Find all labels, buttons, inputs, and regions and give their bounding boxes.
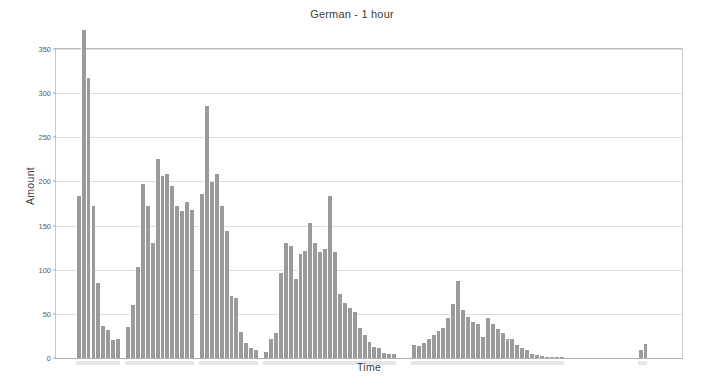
bar — [105, 330, 110, 358]
bar — [322, 249, 327, 358]
bar — [436, 331, 441, 358]
bar — [125, 327, 130, 358]
bar — [278, 273, 283, 358]
gridlines — [56, 49, 682, 358]
bar — [445, 318, 450, 358]
bar — [233, 298, 238, 358]
bar — [243, 343, 248, 358]
bar — [342, 303, 347, 358]
bar — [224, 231, 229, 358]
bar-series — [56, 49, 682, 358]
bar — [248, 348, 253, 358]
y-axis-tick-label: 200 — [38, 177, 51, 186]
bar — [189, 210, 194, 358]
bar — [238, 332, 243, 358]
bar — [86, 78, 91, 358]
bar — [288, 246, 293, 358]
bar — [411, 345, 416, 358]
bar — [204, 106, 209, 358]
y-axis-tick-label: 350 — [38, 45, 51, 54]
y-axis-tick-mark — [53, 181, 56, 182]
gridline — [56, 49, 682, 50]
bar — [209, 182, 214, 358]
bar — [440, 328, 445, 358]
gridline — [56, 314, 682, 315]
bar — [371, 347, 376, 358]
bar — [199, 194, 204, 358]
y-axis-tick-label: 0 — [47, 354, 51, 363]
bar — [337, 294, 342, 358]
bar — [381, 353, 386, 358]
y-axis-tick-mark — [53, 137, 56, 138]
bar — [357, 328, 362, 358]
chart-container: German - 1 hour Amount 05010015020025030… — [0, 0, 704, 383]
bar — [268, 339, 273, 358]
bar — [115, 339, 120, 358]
bar — [169, 186, 174, 358]
bar — [431, 335, 436, 358]
bar — [376, 348, 381, 358]
bar — [307, 223, 312, 358]
bar — [229, 296, 234, 358]
bar — [524, 350, 529, 358]
bar — [460, 310, 465, 358]
bar — [81, 30, 86, 358]
bar — [135, 267, 140, 358]
y-axis-tick-label: 300 — [38, 89, 51, 98]
bar — [470, 322, 475, 358]
bar — [263, 352, 268, 358]
bar — [465, 317, 470, 358]
plot-area: 050100150200250300350 — [55, 48, 683, 359]
bar — [174, 206, 179, 358]
bar — [352, 312, 357, 358]
bar — [317, 252, 322, 358]
bar — [519, 348, 524, 358]
gridline — [56, 358, 682, 359]
bar — [219, 206, 224, 358]
bar — [160, 176, 165, 358]
gridline — [56, 270, 682, 271]
bar — [490, 324, 495, 358]
gridline — [56, 181, 682, 182]
bar — [500, 333, 505, 358]
bar — [421, 343, 426, 358]
bar — [426, 339, 431, 358]
chart-title: German - 1 hour — [0, 8, 704, 20]
bar — [386, 354, 391, 358]
bar — [362, 335, 367, 358]
bar — [110, 340, 115, 358]
bar — [298, 254, 303, 358]
bar — [312, 243, 317, 358]
bar — [302, 251, 307, 358]
y-axis-tick-mark — [53, 225, 56, 226]
x-axis-ticks — [56, 49, 682, 358]
bar — [283, 243, 288, 358]
bar — [549, 357, 554, 358]
bar — [534, 355, 539, 358]
bar — [391, 354, 396, 358]
y-axis-tick-mark — [53, 49, 56, 50]
bar — [253, 350, 258, 358]
bar — [643, 344, 648, 358]
bar — [332, 252, 337, 358]
bar — [91, 206, 96, 358]
bar — [367, 342, 372, 358]
y-axis-tick-mark — [53, 93, 56, 94]
bar — [130, 305, 135, 358]
bar — [293, 279, 298, 358]
y-axis-tick-mark — [53, 313, 56, 314]
y-axis-title: Amount — [24, 146, 36, 226]
bar — [100, 326, 105, 358]
bar — [155, 159, 160, 358]
bar — [450, 304, 455, 358]
y-axis-tick-label: 50 — [43, 309, 51, 318]
bar — [164, 174, 169, 358]
bar — [140, 184, 145, 358]
bar — [347, 308, 352, 358]
y-axis-tick-mark — [53, 269, 56, 270]
bar — [475, 324, 480, 358]
bar — [327, 196, 332, 358]
bar — [544, 357, 549, 358]
bar — [214, 174, 219, 358]
bar — [416, 346, 421, 358]
